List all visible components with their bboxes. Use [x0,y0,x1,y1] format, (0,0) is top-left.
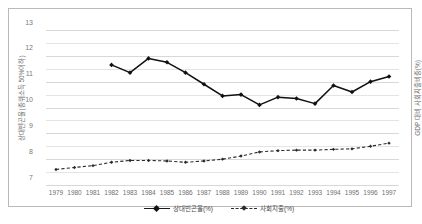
data-point-marker [276,95,281,100]
data-point-marker [73,166,76,169]
legend-swatch-icon [144,205,170,212]
data-point-marker [165,159,168,162]
data-point-marker [313,148,316,151]
data-point-marker [221,157,224,160]
series-lines [46,30,399,185]
data-point-marker [91,164,94,167]
gridline [46,185,399,186]
y-axis-tick: 13 [9,19,33,26]
data-point-marker [147,159,150,162]
data-point-marker [184,161,187,164]
legend-entry[interactable]: 사회지출(%) [231,203,294,213]
data-point-marker [109,63,114,68]
legend-entry[interactable]: 상대빈곤율(%) [144,203,213,213]
data-point-marker [295,148,298,151]
data-point-marker [258,150,261,153]
data-point-marker [294,96,299,101]
series-line [112,58,390,105]
x-axis-tick: 1997 [376,189,402,197]
data-point-marker [332,148,335,151]
chart-frame: 상대빈곤율(중위소득 50%이하) GDP 대비 사회지출비중(%) 13121… [8,8,412,207]
plot-area [46,30,399,185]
data-point-marker [369,145,372,148]
y-axis-tick: 7 [9,174,33,181]
data-point-marker [54,168,57,171]
legend-swatch-icon [231,205,257,212]
series-line [56,143,389,169]
x-axis-tick-labels: 1979198019811982198319841985198619871988… [46,189,399,199]
chart-legend: 상대빈곤율(%)사회지출(%) [17,201,421,215]
y-axis-tick: 10 [9,96,33,103]
data-point-marker [350,147,353,150]
data-point-marker [128,159,131,162]
data-point-marker [239,154,242,157]
y-axis-tick: 8 [9,148,33,155]
data-point-marker [387,141,390,144]
y-axis-tick: 9 [9,122,33,129]
data-point-marker [110,161,113,164]
y-axis-tick: 12 [9,44,33,51]
legend-label: 상대빈곤율(%) [173,203,213,213]
legend-label: 사회지출(%) [260,203,294,213]
data-point-marker [387,74,392,79]
y-axis-tick: 11 [9,70,33,77]
data-point-marker [202,159,205,162]
y-axis-title-right: GDP 대비 사회지출비중(%) [412,38,422,158]
data-point-marker [276,149,279,152]
